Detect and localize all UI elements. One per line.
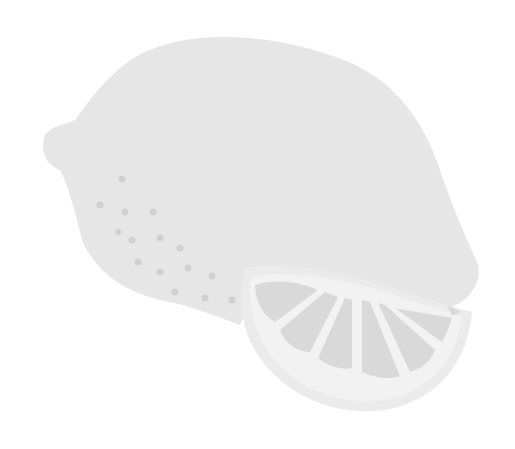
lemon-illustration	[0, 0, 515, 449]
